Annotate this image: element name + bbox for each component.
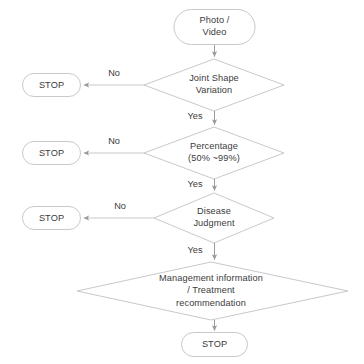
edge-label-yes-2: Yes [180, 179, 210, 190]
edge-label-yes-3: Yes [180, 245, 210, 256]
edge-label-no-2: No [96, 136, 132, 147]
node-joint-shape-variation-shape [144, 59, 284, 111]
flowchart-canvas: Photo / Video Joint Shape Variation STOP… [0, 0, 364, 364]
node-stop-final-shape [182, 333, 248, 357]
node-percentage-shape [144, 127, 284, 179]
node-stop-3-shape [23, 207, 81, 230]
node-management-treatment-shape [77, 262, 348, 320]
node-stop-1-shape [23, 74, 81, 97]
edge-label-no-1: No [96, 68, 132, 79]
edge-label-no-3: No [102, 201, 138, 212]
node-stop-2-shape [23, 142, 81, 165]
node-start-shape [174, 10, 255, 45]
edge-label-yes-1: Yes [180, 111, 210, 122]
node-disease-judgment-shape [154, 193, 274, 243]
